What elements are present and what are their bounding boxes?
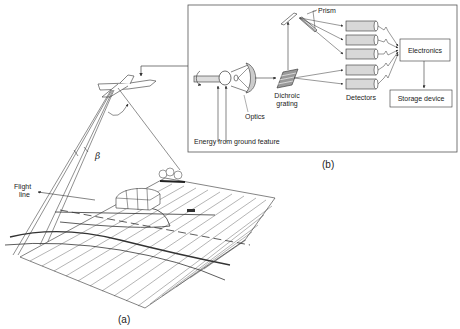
dichroic-grating-icon (277, 69, 298, 88)
scanner-diagram: Electronics Storage device Prism Dichroi… (0, 0, 460, 329)
ground-plane (5, 168, 275, 308)
energy-label: Energy from ground feature (194, 138, 280, 146)
detector-icon (346, 65, 378, 75)
dichroic-label-2: grating (276, 100, 298, 108)
detector-icon (346, 35, 378, 45)
detector-icon (346, 79, 378, 89)
electronics-label: Electronics (408, 47, 443, 54)
caption-b: (b) (322, 159, 334, 170)
vehicle-icon (187, 209, 195, 212)
detector-wires (378, 26, 398, 84)
optics-icon (231, 63, 256, 93)
airplane-icon (98, 75, 156, 97)
rotating-mirror-icon (194, 71, 231, 85)
prism-icon (281, 10, 317, 32)
panel-a: β (5, 75, 275, 325)
optics-label: Optics (245, 113, 265, 121)
flight-line-label-1: Flight (14, 183, 31, 191)
panel-connector (141, 66, 188, 76)
detector-icon (346, 49, 378, 59)
detectors (346, 21, 378, 89)
spectral-rays (294, 18, 343, 84)
beta-label: β (94, 151, 100, 161)
caption-a: (a) (118, 314, 130, 325)
detectors-label: Detectors (346, 94, 376, 101)
greenhouse-icon (116, 188, 160, 210)
detector-icon (346, 21, 378, 31)
panel-b: Electronics Storage device Prism Dichroi… (141, 5, 457, 170)
prism-label: Prism (318, 7, 336, 14)
storage-device-label: Storage device (398, 95, 445, 103)
flight-line-label-2: line (19, 191, 30, 198)
dichroic-label-1: Dichroic (274, 92, 300, 99)
